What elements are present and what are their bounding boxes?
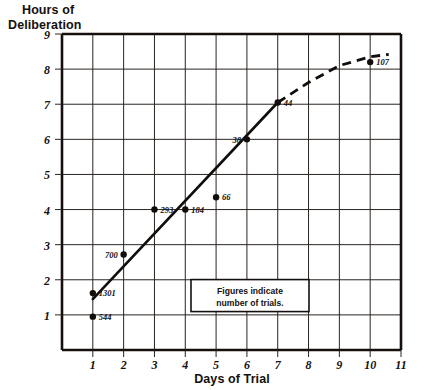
annotation-box: Figures indicatenumber of trials.	[191, 280, 309, 312]
x-axis-title: Days of Trial	[194, 372, 270, 386]
x-tick-label: 9	[336, 358, 342, 372]
y-tick-label: 4	[43, 204, 50, 218]
x-tick-label: 10	[364, 358, 376, 372]
y-axis-title-line1: Hours of	[22, 3, 75, 17]
data-point-label: 1301	[99, 288, 116, 298]
data-point-label: 184	[191, 205, 204, 215]
deliberation-scatter-chart: 1234567891011123456789 54413017002931846…	[0, 0, 424, 390]
data-point-label: 38	[231, 135, 241, 145]
data-point-marker	[244, 136, 250, 142]
y-tick-label: 2	[43, 274, 50, 288]
data-point-marker	[213, 194, 219, 200]
data-point-marker	[120, 251, 126, 257]
data-point-label: 107	[376, 57, 390, 67]
chart-container: 1234567891011123456789 54413017002931846…	[0, 0, 424, 390]
y-tick-label: 1	[44, 309, 50, 323]
x-tick-label: 11	[395, 358, 406, 372]
x-tick-label: 4	[181, 358, 188, 372]
annotation-line1: Figures indicate	[217, 286, 283, 296]
data-point-marker	[90, 313, 96, 319]
annotation-line2: number of trials.	[216, 298, 283, 308]
y-tick-label: 5	[44, 168, 50, 182]
x-tick-label: 5	[213, 358, 219, 372]
data-point-label: 44	[283, 98, 293, 108]
x-tick-label: 6	[244, 358, 250, 372]
data-point-marker	[90, 290, 96, 296]
y-tick-label: 3	[43, 239, 50, 253]
y-tick-label: 6	[44, 133, 50, 147]
data-point-marker	[367, 59, 373, 65]
data-point-label: 700	[105, 250, 119, 260]
data-point-marker	[151, 206, 157, 212]
x-tick-label: 2	[120, 358, 127, 372]
data-point-marker	[182, 206, 188, 212]
x-tick-label: 3	[150, 358, 157, 372]
y-tick-label: 7	[44, 98, 51, 112]
x-tick-label: 8	[306, 358, 312, 372]
data-point-label: 293	[159, 205, 174, 215]
data-point-marker	[275, 99, 281, 105]
data-point-label: 66	[222, 192, 231, 202]
x-tick-label: 7	[275, 358, 282, 372]
y-axis-title-line2: Deliberation	[8, 18, 81, 32]
x-tick-label: 1	[90, 358, 96, 372]
trend-line	[93, 54, 389, 299]
y-tick-label: 8	[44, 63, 50, 77]
data-point-label: 544	[99, 312, 112, 322]
